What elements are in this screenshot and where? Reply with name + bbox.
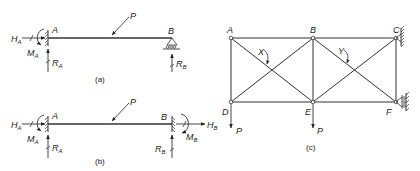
- svg-text:MA: MA: [27, 48, 39, 59]
- joint-d: [229, 100, 233, 104]
- diagram-b: HA MA RA A P B HB MB RB (b): [11, 97, 218, 166]
- node-label-c: C: [393, 25, 400, 35]
- structural-diagrams: HA MA RA A P B RB (a): [0, 0, 420, 171]
- fixed-support-b-icon: [172, 116, 175, 132]
- joint-b: [311, 36, 315, 40]
- node-label-a: A: [51, 111, 58, 121]
- diagram-a: HA MA RA A P B RB (a): [11, 11, 187, 84]
- angle-y-arrow-icon: [344, 50, 348, 63]
- roller-support-b-icon: [163, 38, 180, 49]
- svg-text:HA: HA: [11, 120, 22, 131]
- svg-text:HA: HA: [11, 34, 22, 45]
- joint-e: [311, 100, 315, 104]
- svg-text:RB: RB: [176, 59, 187, 70]
- node-label-b: B: [161, 112, 167, 122]
- svg-text:P: P: [317, 126, 323, 136]
- svg-text:P: P: [130, 97, 136, 107]
- svg-text:MA: MA: [27, 134, 39, 145]
- svg-text:P: P: [130, 11, 136, 21]
- fixed-support-a-icon: [45, 116, 48, 132]
- svg-text:Y: Y: [338, 46, 345, 56]
- caption-a: (a): [95, 75, 105, 84]
- moment-arrow-icon: [37, 29, 44, 45]
- svg-text:RA: RA: [52, 58, 63, 69]
- moment-arrow-icon: [37, 115, 44, 131]
- angle-x-arrow-icon: [264, 50, 268, 64]
- node-label-b: B: [310, 25, 316, 35]
- svg-text:P: P: [236, 126, 242, 136]
- caption-c: (c): [306, 143, 316, 152]
- node-label-f: F: [386, 107, 392, 117]
- caption-b: (b): [95, 157, 105, 166]
- svg-text:RB: RB: [155, 144, 166, 155]
- node-label-a: A: [226, 25, 233, 35]
- svg-text:RA: RA: [52, 143, 63, 154]
- load-arrow-icon: [112, 103, 129, 121]
- node-label-e: E: [305, 107, 312, 117]
- svg-text:MB: MB: [186, 132, 198, 143]
- node-label-a: A: [51, 25, 58, 35]
- svg-text:HB: HB: [207, 120, 218, 131]
- node-label-b: B: [168, 26, 174, 36]
- load-arrow-icon: [112, 17, 129, 35]
- node-label-d: D: [222, 107, 229, 117]
- svg-text:X: X: [257, 47, 265, 57]
- fixed-support-a-icon: [45, 30, 48, 46]
- joint-a: [229, 36, 233, 40]
- diagram-c-truss: A B C D E F X Y P P: [222, 25, 409, 152]
